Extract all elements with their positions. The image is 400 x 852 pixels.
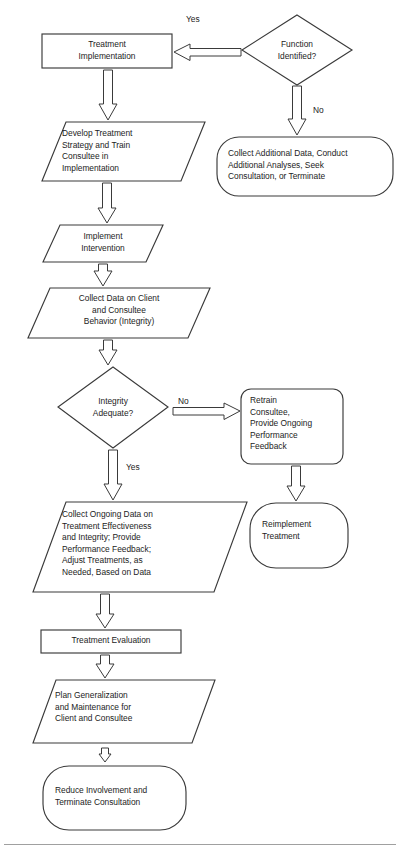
arrow-treatment-to-develop [99, 70, 117, 120]
node-function-identified[interactable] [242, 15, 352, 85]
arrow-plan-to-reduce [99, 748, 111, 762]
arrow-develop-to-implement [98, 183, 116, 223]
arrow-implement-to-collect-data [94, 264, 112, 286]
node-reimplement-treatment[interactable] [250, 503, 348, 568]
edge-label-yes-function: Yes [186, 14, 200, 24]
node-implement-intervention[interactable] [43, 225, 163, 262]
edge-label-no-function: No [313, 105, 324, 115]
node-collect-additional-data[interactable] [217, 137, 393, 196]
arrow-retrain-to-reimplement [287, 466, 305, 501]
node-treatment-evaluation[interactable] [41, 630, 181, 653]
node-plan-generalization[interactable] [33, 680, 215, 743]
arrow-function-no-to-collect-additional [288, 86, 306, 135]
node-collect-data-on-client[interactable] [28, 288, 210, 338]
node-integrity-adequate[interactable] [58, 367, 168, 448]
arrow-collect-data-to-integrity [99, 340, 117, 365]
edge-label-yes-integrity: Yes [126, 462, 140, 472]
arrow-function-yes-to-treatment [174, 44, 241, 61]
node-develop-treatment-strategy[interactable] [42, 122, 205, 181]
node-treatment-implementation[interactable] [42, 34, 172, 68]
arrow-integrity-yes-to-ongoing [104, 450, 122, 500]
node-collect-ongoing-data[interactable] [33, 502, 247, 592]
arrow-ongoing-to-evaluation [96, 594, 114, 628]
arrow-evaluation-to-plan [96, 655, 114, 678]
edge-label-no-integrity: No [178, 396, 189, 406]
flowchart-canvas: .shp { fill: #ffffff; stroke: #3a3a3a; s… [0, 0, 400, 852]
node-retrain-consultee[interactable] [241, 389, 343, 464]
node-reduce-involvement[interactable] [43, 766, 186, 830]
